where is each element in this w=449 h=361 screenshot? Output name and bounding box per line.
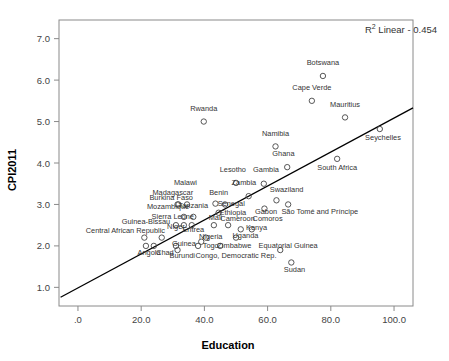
data-point-marker	[142, 235, 147, 240]
data-point-label: Rwanda	[190, 104, 218, 113]
data-point-label: Congo, Democratic Rep.	[196, 251, 277, 260]
data-point-label: Ghana	[272, 149, 295, 158]
data-point-marker	[261, 181, 266, 186]
data-point-label: Namibia	[262, 129, 290, 138]
data-point-marker	[273, 144, 278, 149]
data-point-marker	[285, 164, 290, 169]
y-tick-label: 1.0	[37, 282, 50, 293]
data-point-label: São Tomé and Príncipe	[281, 207, 358, 216]
data-point-marker	[320, 73, 325, 78]
scatter-chart: .020.040.060.080.0100.0 1.02.03.04.05.06…	[0, 0, 449, 361]
y-axis-title: CPI2011	[6, 149, 18, 191]
data-point-marker	[274, 198, 279, 203]
data-point-label: Seychelles	[365, 133, 401, 142]
data-point-label: Mauritius	[330, 100, 360, 109]
data-point-labels: BotswanaCape VerdeMauritiusRwandaSeychel…	[86, 58, 401, 274]
data-point-marker	[225, 222, 230, 227]
x-tick-label: .0	[74, 314, 82, 325]
data-point-marker	[309, 98, 314, 103]
y-tick-label: 4.0	[37, 158, 50, 169]
data-point-label: Cameroon	[220, 214, 255, 223]
data-point-label: Sudan	[284, 265, 305, 274]
data-point-label: Uganda	[233, 231, 260, 240]
data-point-marker	[377, 126, 382, 131]
data-point-marker	[201, 119, 206, 124]
data-point-label: Guinea	[172, 239, 197, 248]
data-point-label: Zimbabwe	[217, 241, 251, 250]
data-point-marker	[159, 235, 164, 240]
chart-canvas: .020.040.060.080.0100.0 1.02.03.04.05.06…	[0, 0, 449, 361]
data-point-label: Senegal	[218, 199, 245, 208]
data-point-marker	[289, 260, 294, 265]
data-point-label: Botswana	[307, 58, 340, 67]
x-axis-title: Education	[201, 339, 254, 351]
data-point-label: Zambia	[232, 178, 258, 187]
axis-ticks	[54, 39, 394, 311]
data-point-label: Tanzania	[179, 201, 209, 210]
y-tick-label: 7.0	[37, 33, 50, 44]
data-point-label: Burundi	[170, 251, 196, 260]
data-point-label: Lesotho	[220, 165, 246, 174]
data-point-label: South Africa	[317, 163, 358, 172]
data-point-label: Togo	[203, 241, 219, 250]
data-point-label: Malawi	[174, 178, 197, 187]
data-point-label: Equatorial Guinea	[259, 241, 319, 250]
y-tick-label: 6.0	[37, 75, 50, 86]
y-tick-label: 3.0	[37, 199, 50, 210]
data-point-marker	[211, 222, 216, 227]
data-point-label: Gambia	[253, 165, 280, 174]
x-axis-tick-labels: .020.040.060.080.0100.0	[74, 314, 406, 325]
x-tick-label: 60.0	[258, 314, 277, 325]
data-point-label: Comoros	[253, 214, 283, 223]
x-tick-label: 20.0	[132, 314, 151, 325]
data-point-label: Benin	[209, 188, 228, 197]
x-tick-label: 40.0	[195, 314, 214, 325]
data-point-marker	[334, 156, 339, 161]
plot-frame	[59, 20, 413, 306]
data-point-label: Central African Republic	[86, 226, 166, 235]
y-axis-tick-labels: 1.02.03.04.05.06.07.0	[37, 33, 50, 293]
y-tick-label: 2.0	[37, 240, 50, 251]
x-tick-label: 80.0	[322, 314, 341, 325]
y-tick-label: 5.0	[37, 116, 50, 127]
data-point-label: Cape Verde	[292, 83, 331, 92]
data-point-label: Swaziland	[270, 185, 304, 194]
r-squared-annotation: R2 Linear - 0.454	[365, 23, 437, 35]
data-point-marker	[342, 115, 347, 120]
x-tick-label: 100.0	[382, 314, 406, 325]
